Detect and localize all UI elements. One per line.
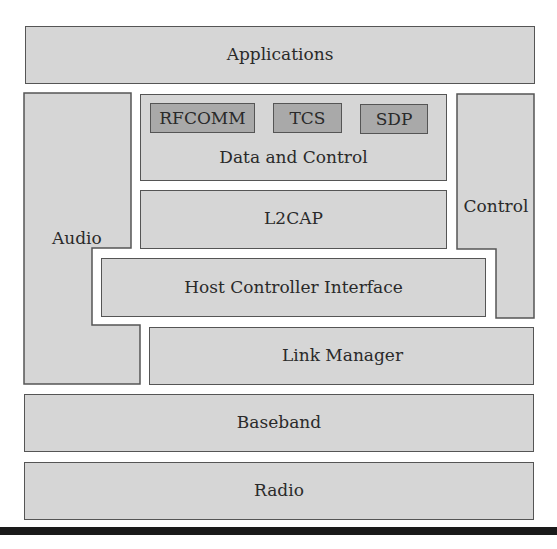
applications-label: Applications bbox=[25, 46, 535, 63]
data-and-control-label: Data and Control bbox=[140, 149, 447, 166]
radio-label: Radio bbox=[24, 482, 534, 499]
audio-label: Audio bbox=[52, 230, 102, 247]
tcs-label: TCS bbox=[273, 110, 342, 127]
control-label: Control bbox=[460, 198, 532, 215]
l2cap-label: L2CAP bbox=[140, 210, 447, 227]
baseband-label: Baseband bbox=[24, 414, 534, 431]
sdp-label: SDP bbox=[360, 111, 428, 128]
bottom-rule bbox=[0, 527, 557, 535]
hci-label: Host Controller Interface bbox=[101, 279, 486, 296]
rfcomm-label: RFCOMM bbox=[150, 110, 255, 127]
link-manager-label: Link Manager bbox=[200, 347, 485, 364]
